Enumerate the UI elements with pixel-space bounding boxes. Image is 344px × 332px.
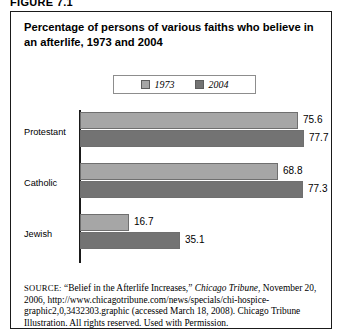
bar-catholic-1973 <box>80 163 278 180</box>
bar-value-jewish-2004: 35.1 <box>185 234 204 245</box>
bar-protestant-2004 <box>80 130 304 147</box>
bar-value-protestant-2004: 77.7 <box>309 132 328 143</box>
figure-frame: Percentage of persons of various faiths … <box>10 11 332 329</box>
source-kicker: SOURCE: <box>24 283 62 293</box>
source-note: SOURCE: “Belief in the Afterlife Increas… <box>24 283 324 329</box>
legend-label-1973: 1973 <box>155 79 175 90</box>
category-label-protestant: Protestant <box>24 127 76 137</box>
legend-label-2004: 2004 <box>209 79 229 90</box>
source-text-part1: “Belief in the Afterlife Increases,” <box>62 283 195 293</box>
chart-title: Percentage of persons of various faiths … <box>24 20 316 49</box>
bar-catholic-2004 <box>80 181 303 198</box>
bar-value-catholic-1973: 68.8 <box>283 165 302 176</box>
legend-item-2004: 2004 <box>195 79 229 90</box>
category-label-jewish: Jewish <box>24 229 76 239</box>
plot-area: Protestant 75.6 77.7 Catholic 68.8 77.3 <box>24 108 320 266</box>
bar-value-protestant-1973: 75.6 <box>303 114 322 125</box>
legend-swatch-1973 <box>141 80 150 89</box>
category-label-catholic: Catholic <box>24 178 76 188</box>
bar-jewish-2004 <box>80 232 180 249</box>
legend-item-1973: 1973 <box>141 79 175 90</box>
chart-legend: 1973 2004 <box>113 75 256 94</box>
legend-swatch-2004 <box>195 80 204 89</box>
source-publication: Chicago Tribune <box>195 283 258 293</box>
bar-jewish-1973 <box>80 214 129 231</box>
bar-value-catholic-2004: 77.3 <box>308 183 327 194</box>
figure-label: FIGURE 7.1 <box>10 0 73 8</box>
bar-protestant-1973 <box>80 112 298 129</box>
bar-value-jewish-1973: 16.7 <box>134 216 153 227</box>
